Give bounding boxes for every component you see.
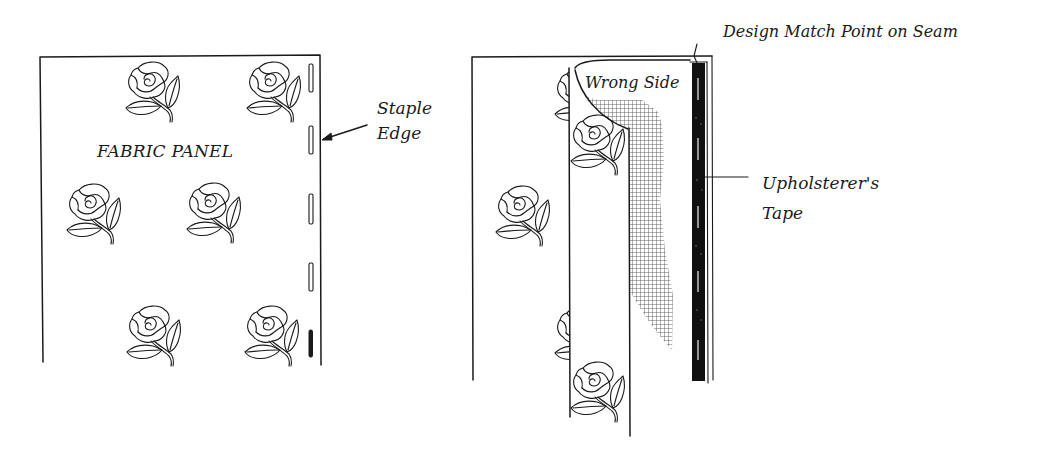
rose-icon bbox=[127, 306, 180, 366]
tape-label-line2: Tape bbox=[762, 198, 879, 228]
rose-icon bbox=[67, 184, 120, 244]
staple-row bbox=[309, 64, 313, 357]
staple-edge-label: Staple Edge bbox=[377, 96, 432, 146]
diagram-drawing bbox=[0, 0, 1058, 458]
staple-edge-arrow bbox=[322, 125, 367, 140]
rose-icon bbox=[496, 186, 549, 246]
fabric-panel-label: FABRIC PANEL bbox=[97, 143, 233, 160]
rose-icon bbox=[187, 183, 240, 243]
rose-icon bbox=[247, 62, 300, 122]
fabric-panel-diagram: FABRIC PANEL Staple Edge Wrong Side Desi… bbox=[0, 0, 1058, 458]
staple-edge-line1: Staple bbox=[377, 96, 432, 121]
staple-edge-line2: Edge bbox=[377, 121, 432, 146]
upholsterers-tape bbox=[690, 56, 713, 383]
right-fabric-panel bbox=[472, 44, 748, 436]
rose-icon bbox=[126, 62, 179, 122]
staple-icon bbox=[309, 330, 313, 357]
staple-icon bbox=[309, 64, 313, 92]
left-fabric-panel bbox=[40, 55, 367, 366]
staple-icon bbox=[309, 194, 313, 224]
design-match-point-label: Design Match Point on Seam bbox=[723, 24, 958, 40]
staple-icon bbox=[309, 126, 313, 154]
flap-edge bbox=[569, 68, 570, 417]
rose-icon bbox=[245, 306, 298, 366]
flap-fold-line bbox=[629, 128, 630, 436]
upholsterers-tape-label: Upholsterer's Tape bbox=[762, 168, 879, 228]
match-point-leader bbox=[694, 44, 697, 63]
tape-label-line1: Upholsterer's bbox=[762, 168, 879, 198]
staple-icon bbox=[309, 263, 313, 291]
wrong-side-label: Wrong Side bbox=[585, 75, 679, 91]
